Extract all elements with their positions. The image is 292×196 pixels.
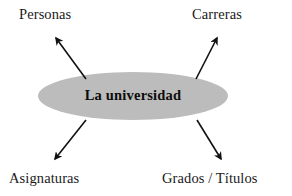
arrow-to-grados-titulos [197,120,221,159]
node-label-grados-titulos: Grados / Títulos [162,171,258,186]
arrow-to-carreras [196,38,217,79]
arrow-to-asignaturas [55,120,86,159]
center-node-label: La universidad [0,88,266,103]
concept-map-diagram: La universidad Personas Carreras Asignat… [0,0,292,196]
node-label-personas: Personas [19,7,71,22]
node-label-asignaturas: Asignaturas [9,171,79,186]
arrow-to-personas [56,38,86,79]
node-label-carreras: Carreras [192,7,242,22]
